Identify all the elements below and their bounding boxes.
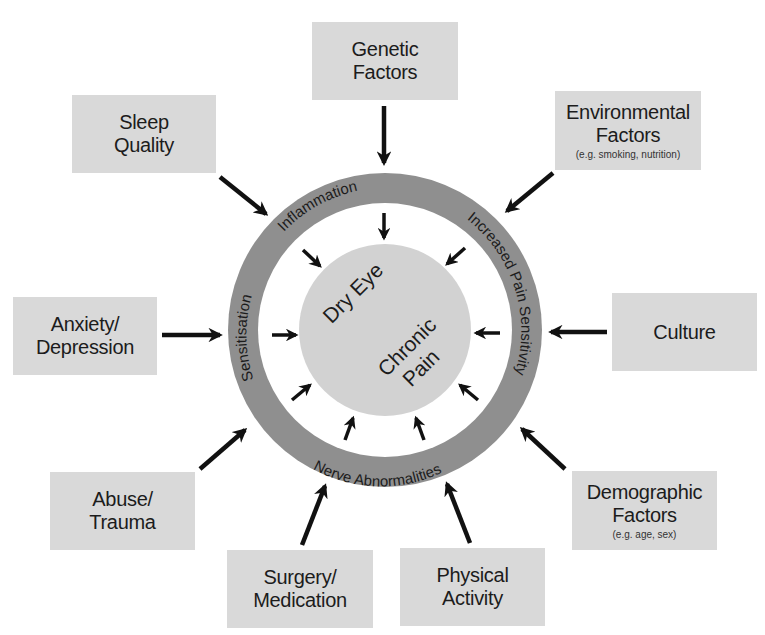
- factor-note: (e.g. smoking, nutrition): [576, 148, 681, 161]
- factor-sleep-quality: Sleep Quality: [72, 95, 216, 173]
- factor-label: Sleep: [119, 111, 169, 134]
- factor-label: Factors: [612, 504, 677, 527]
- factor-label: Demographic: [587, 481, 703, 504]
- factor-label: Physical: [436, 564, 508, 587]
- factor-label: Factors: [596, 124, 661, 147]
- factor-label: Factors: [353, 61, 418, 84]
- arrow-sleep: [220, 177, 266, 214]
- factor-label: Anxiety/: [51, 313, 120, 336]
- core-circle: [299, 244, 471, 416]
- factor-label: Genetic: [352, 38, 419, 61]
- arrow-environmental: [507, 173, 553, 211]
- factor-label: Abuse/: [92, 488, 152, 511]
- arrow-abuse: [200, 430, 245, 469]
- arrow-surgery: [302, 486, 325, 545]
- factor-anxiety-depression: Anxiety/ Depression: [13, 297, 157, 375]
- factor-culture: Culture: [612, 293, 757, 371]
- arrow-physical: [447, 484, 470, 543]
- factor-physical-activity: Physical Activity: [400, 548, 545, 626]
- factor-label: Quality: [114, 134, 174, 157]
- factor-label: Environmental: [566, 101, 690, 124]
- factor-label: Activity: [442, 587, 503, 610]
- factor-note: (e.g. age, sex): [613, 528, 677, 541]
- factor-label: Culture: [653, 321, 715, 344]
- arrow-demographic: [522, 429, 565, 469]
- factor-environmental: Environmental Factors (e.g. smoking, nut…: [555, 91, 701, 170]
- factor-label: Trauma: [89, 511, 155, 534]
- factor-demographic: Demographic Factors (e.g. age, sex): [572, 471, 717, 550]
- factor-abuse-trauma: Abuse/ Trauma: [50, 472, 195, 550]
- factor-label: Depression: [36, 336, 134, 359]
- factor-label: Medication: [253, 589, 347, 612]
- factor-surgery-medication: Surgery/ Medication: [227, 550, 373, 628]
- factor-genetic: Genetic Factors: [312, 22, 458, 100]
- factor-label: Surgery/: [263, 566, 336, 589]
